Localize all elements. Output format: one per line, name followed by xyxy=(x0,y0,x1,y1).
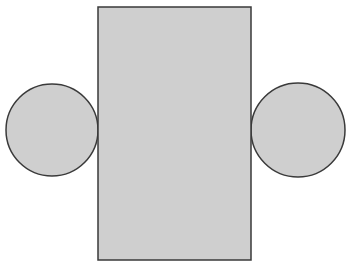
diagram-canvas xyxy=(0,0,353,272)
left-circle xyxy=(6,84,98,176)
right-circle xyxy=(251,83,345,177)
center-rectangle xyxy=(98,7,251,260)
